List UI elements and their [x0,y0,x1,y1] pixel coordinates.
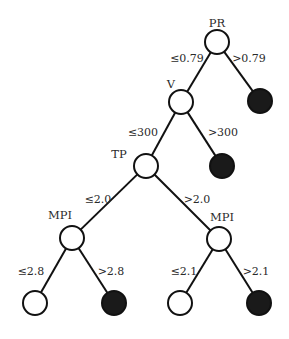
edge-condition-label: ≤0.79 [170,52,204,65]
edge-condition-label: >0.79 [232,52,266,65]
split-node [205,30,229,54]
split-node [134,154,158,178]
split-feature-label: TP [111,147,127,161]
split-node [169,90,193,114]
split-feature-label: V [166,77,176,91]
split-feature-label: PR [209,16,226,30]
split-feature-label: MPI [48,208,72,222]
split-feature-label: MPI [210,210,234,224]
edge-condition-label: ≤300 [128,126,158,139]
positive-leaf-node [210,154,234,178]
split-node [60,226,84,250]
edge-condition-label: ≤2.0 [85,193,112,206]
edge-condition-label: >300 [208,126,238,139]
tree-nodes [23,30,272,315]
positive-leaf-node [248,89,272,113]
edge-condition-label: >2.1 [243,265,270,278]
edge-condition-label: ≤2.1 [171,265,198,278]
negative-leaf-node [168,291,192,315]
positive-leaf-node [102,291,126,315]
tree-edge [41,248,66,292]
edge-condition-label: ≤2.8 [18,265,45,278]
decision-tree-diagram: ≤0.79>0.79≤300>300≤2.0>2.0≤2.8>2.8≤2.1>2… [0,0,289,339]
positive-leaf-node [247,291,271,315]
edge-condition-label: >2.8 [98,265,125,278]
negative-leaf-node [23,291,47,315]
edge-condition-label: >2.0 [184,193,211,206]
split-node [207,227,231,251]
